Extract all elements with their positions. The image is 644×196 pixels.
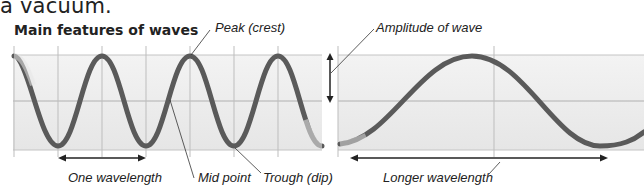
peak-leader	[191, 30, 210, 55]
mid-point-label: Mid point	[198, 170, 251, 185]
wave-diagram	[0, 0, 644, 196]
right-wave-panel	[338, 46, 644, 157]
left-wave-panel	[13, 46, 322, 157]
amplitude-label: Amplitude of wave	[376, 20, 482, 35]
longer-wavelength-label: Longer wavelength	[383, 170, 493, 185]
peak-label: Peak (crest)	[215, 20, 285, 35]
amplitude-arrow	[327, 53, 334, 103]
longer-wavelength-arrow	[350, 155, 608, 162]
trough-label: Trough (dip)	[263, 170, 333, 185]
one-wavelength-label: One wavelength	[68, 170, 162, 185]
